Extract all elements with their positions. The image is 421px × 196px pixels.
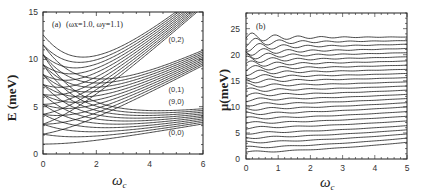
y-tick-label: 10	[231, 102, 241, 112]
panel-b-label: (b)	[256, 22, 266, 31]
chemical-potential-curve	[246, 38, 407, 46]
x-tick-label: 3	[340, 163, 345, 173]
x-tick-label: 4	[147, 159, 152, 169]
chemical-potential-curve	[246, 103, 407, 111]
y-tick-label: 5	[33, 102, 38, 112]
y-tick-label: 25	[231, 24, 241, 34]
chemical-potential-curve	[246, 48, 407, 55]
x-tick-label: 1	[276, 163, 281, 173]
panel-a-y-axis-label: E (meV)	[4, 75, 19, 122]
y-tick-label: 5	[235, 128, 240, 138]
panel-b-frame	[246, 13, 407, 159]
panel-b-chemical-potential: 0123450510152025 (b) μ(meV) ωc	[216, 13, 410, 192]
figure: 0246051015 (a) (ωx=1.0, ωy=1.1) (0,2)(0,…	[0, 0, 421, 196]
chemical-potential-curve	[246, 121, 407, 129]
chemical-potential-curve	[246, 33, 407, 41]
x-tick-label: 2	[94, 159, 99, 169]
chemical-potential-curve	[246, 86, 407, 91]
y-tick-label: 20	[231, 50, 241, 60]
y-tick-label: 15	[231, 76, 241, 86]
panel-b-x-axis-label: ωc	[320, 174, 335, 192]
panel-b-ticks	[246, 13, 407, 159]
band-label: (0,0)	[169, 128, 185, 137]
band-label: (9,0)	[169, 97, 185, 106]
y-tick-label: 10	[29, 54, 39, 64]
band-label: (0,1)	[169, 85, 185, 94]
energy-level-curve	[43, 0, 203, 62]
chemical-potential-curve	[246, 78, 407, 83]
x-tick-label: 5	[405, 163, 410, 173]
panel-a-params: (ωx=1.0, ωy=1.1)	[66, 20, 123, 29]
band-label: (0,2)	[169, 35, 185, 44]
y-tick-label: 0	[235, 154, 240, 164]
x-tick-label: 2	[308, 163, 313, 173]
panel-a-x-axis-label: ωc	[112, 172, 127, 190]
x-tick-label: 0	[244, 163, 249, 173]
x-tick-label: 0	[41, 159, 46, 169]
chemical-potential-curve	[246, 130, 407, 139]
chemical-potential-curve	[246, 82, 407, 87]
panel-b-curves	[246, 33, 407, 152]
chemical-potential-curve	[246, 61, 407, 66]
x-tick-label: 4	[372, 163, 377, 173]
y-tick-label: 0	[33, 149, 38, 159]
panel-a-energy-spectrum: 0246051015 (a) (ωx=1.0, ωy=1.1) (0,2)(0,…	[4, 0, 206, 190]
y-tick-label: 15	[29, 7, 39, 17]
panel-a-label: (a)	[52, 20, 61, 29]
chemical-potential-curve	[246, 44, 407, 52]
x-tick-label: 6	[201, 159, 206, 169]
panel-b-y-axis-label: μ(meV)	[216, 69, 231, 111]
